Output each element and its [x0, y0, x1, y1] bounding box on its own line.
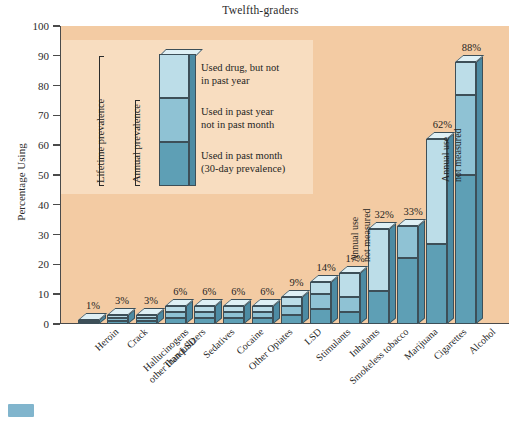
y-axis-tick: 90 [0, 50, 60, 62]
bar-segment-lifetime [194, 306, 215, 312]
bar-segment-lifetime [136, 315, 157, 318]
bar-value-label: 6% [202, 286, 216, 297]
bar[interactable] [165, 306, 186, 324]
bar-segment-lifetime [223, 306, 244, 312]
bar-value-label: 14% [316, 262, 335, 273]
bar-segment-lifetime [252, 306, 273, 312]
legend-item-month: Used in past month (30-day prevalence) [201, 150, 285, 175]
legend-item-lifetime-line2: in past year [201, 75, 279, 88]
bar-segment-past-year [339, 297, 360, 312]
y-axis-tick-mark [53, 85, 60, 86]
y-axis-tick: 10 [0, 288, 60, 300]
bar-value-label: 32% [375, 209, 394, 220]
bar-side-face [331, 276, 338, 324]
y-axis-tick-label: 50 [38, 169, 49, 181]
legend-item-annual: Used in past year not in past month [201, 106, 274, 131]
bar-segment-past-month [165, 318, 186, 324]
x-axis-tick-label: Heroin [92, 326, 120, 353]
y-axis-title: Percentage Using [15, 97, 27, 267]
annotation-cigarettes: Annual use not measured [440, 128, 463, 182]
y-axis-tick-mark [53, 174, 60, 175]
brace-annual-bottom [135, 185, 140, 186]
chart-legend: Lifetime prevalence Annual prevalence Us… [73, 48, 313, 196]
chart-root: Twelfth-graders Percentage Using 1009080… [0, 0, 521, 425]
y-axis-tick-label: 100 [33, 20, 50, 32]
bar-segment-past-month [281, 315, 302, 324]
bar[interactable] [136, 315, 157, 324]
bar[interactable] [107, 315, 128, 324]
bar-segment-past-year [194, 312, 215, 318]
bar[interactable] [397, 226, 418, 324]
brace-lifetime-bottom [99, 185, 104, 186]
y-axis-tick-label: 40 [38, 199, 49, 211]
y-axis-tick-mark [53, 293, 60, 294]
y-axis-tick: 80 [0, 80, 60, 92]
bar[interactable] [223, 306, 244, 324]
bar[interactable] [310, 282, 331, 324]
bar-segment-past-year [223, 312, 244, 318]
bar-segment-lifetime [165, 306, 186, 312]
bar[interactable] [252, 306, 273, 324]
bar-segment-lifetime [455, 62, 476, 95]
bar-value-label: 9% [289, 277, 303, 288]
bar[interactable] [194, 306, 215, 324]
y-axis-tick-mark [53, 234, 60, 235]
y-axis-tick: 30 [0, 229, 60, 241]
annotation-smokeless-line2: not measured [361, 208, 372, 262]
bar-segment-past-month [223, 318, 244, 324]
brace-annual-label: Annual prevalence [131, 104, 142, 183]
bar-value-label: 33% [404, 206, 423, 217]
bar-value-label: 6% [173, 286, 187, 297]
y-axis-tick-label: 80 [38, 80, 49, 92]
bar-value-label: 88% [462, 42, 481, 53]
y-axis-tick-mark [53, 55, 60, 56]
legend-item-lifetime-line1: Used drug, but not [201, 62, 279, 75]
bar-segment-lifetime [339, 273, 360, 297]
bar-segment-past-month [455, 175, 476, 324]
page-title: Twelfth-graders [0, 4, 521, 16]
bar[interactable] [455, 62, 476, 324]
y-axis-tick-label: 20 [38, 258, 49, 270]
watermark-icon [8, 404, 34, 417]
annotation-cigarettes-line1: Annual use [440, 137, 451, 182]
legend-sample-bar [159, 54, 189, 186]
y-axis-tick: 40 [0, 199, 60, 211]
y-axis-tick: 20 [0, 258, 60, 270]
y-axis-tick-label: 60 [38, 139, 49, 151]
bar-side-face [302, 291, 309, 324]
bar-group[interactable]: 17% [339, 26, 367, 324]
bar-segment-past-year [165, 312, 186, 318]
bar[interactable] [78, 320, 99, 324]
y-axis-tick: 100 [0, 20, 60, 32]
bar-group[interactable]: 32% [368, 26, 396, 324]
y-axis-tick-mark [53, 204, 60, 205]
y-axis-tick-label: 0 [44, 318, 50, 330]
bar-segment-past-month [368, 291, 389, 324]
bar-side-face [360, 267, 367, 324]
bar-group[interactable]: 14% [310, 26, 338, 324]
y-axis-tick-label: 30 [38, 229, 49, 241]
brace-lifetime-label: Lifetime prevalence [95, 99, 106, 183]
bar-group[interactable]: 33% [397, 26, 425, 324]
bar-segment-past-month [339, 312, 360, 324]
y-axis-tick-label: 10 [38, 288, 49, 300]
y-axis-tick: 60 [0, 139, 60, 151]
bar-segment-past-year [310, 294, 331, 309]
bar-value-label: 6% [260, 286, 274, 297]
y-axis-tick-mark [53, 323, 60, 324]
bar[interactable] [281, 297, 302, 324]
x-axis-tick-label: Sedatives [201, 326, 237, 361]
y-axis-tick-label: 70 [38, 109, 49, 121]
y-axis-tick-mark [53, 144, 60, 145]
bar-segment-past-month [194, 318, 215, 324]
y-axis: Percentage Using 1009080706050403020100 [0, 26, 60, 326]
x-axis-tick-label: Crack [124, 326, 149, 351]
legend-item-annual-line1: Used in past year [201, 106, 274, 119]
bar-segment-past-month [397, 258, 418, 324]
legend-item-month-line2: (30-day prevalence) [201, 163, 285, 176]
brace-lifetime-top [99, 56, 104, 57]
y-axis-tick: 50 [0, 169, 60, 181]
legend-bar-side-face [189, 54, 196, 186]
bar[interactable] [339, 273, 360, 324]
y-axis-tick-mark [53, 25, 60, 26]
